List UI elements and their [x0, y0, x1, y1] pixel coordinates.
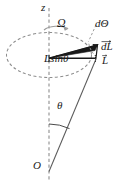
omega-label: Ω [57, 17, 66, 29]
L-vector-line [49, 59, 96, 172]
L-vector-text: L [102, 55, 108, 66]
L-label: L [102, 55, 108, 66]
L-label-text: L [102, 54, 108, 66]
d-theta-label: dΘ [95, 18, 108, 29]
physics-figure: z Ω dΘ dL Lsinθ L θ O [0, 0, 121, 187]
dL-vector-text: dL [101, 41, 113, 52]
theta-arc [49, 124, 70, 129]
dL-label: dL [101, 41, 113, 52]
theta-label: θ [57, 100, 62, 111]
origin-label: O [33, 160, 41, 171]
dL-label-text: dL [101, 40, 113, 52]
L-sin-theta-label: Lsinθ [44, 53, 68, 64]
z-axis-label: z [41, 2, 45, 13]
